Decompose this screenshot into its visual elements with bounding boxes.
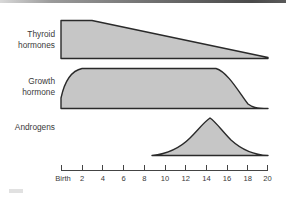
top-rule-bar [0,0,286,3]
tick-label-8: 8 [142,174,146,183]
tick-label-12: 12 [181,174,189,183]
label-thyroid-line2: hormones [18,40,55,50]
tick-label-4: 4 [101,174,105,183]
thyroid-hormones-area [61,21,268,59]
hormone-levels-chart: Thyroid hormones Growth hormone Androgen… [0,0,286,198]
tick-label-6: 6 [121,174,125,183]
tick-label-20: 20 [263,174,271,183]
hormone-levels-figure: Thyroid hormones Growth hormone Androgen… [0,0,286,198]
tick-label-16: 16 [223,174,231,183]
label-thyroid-line1: Thyroid [27,29,55,39]
caption-trace [9,189,23,193]
tick-label-birth: Birth [55,174,71,183]
tick-label-2: 2 [80,174,84,183]
tick-label-10: 10 [161,174,169,183]
label-growth-line1: Growth [28,76,55,86]
label-androgens: Androgens [15,122,55,132]
growth-hormone-area [61,69,268,109]
androgens-area [152,118,268,156]
tick-label-18: 18 [244,174,252,183]
label-growth-line2: hormone [22,87,55,97]
tick-label-14: 14 [202,174,210,183]
x-axis-ticks [62,165,268,171]
